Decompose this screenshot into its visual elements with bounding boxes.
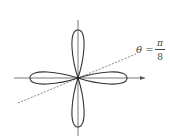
x-axis-arrow-icon (140, 76, 145, 80)
origin-point (76, 76, 79, 79)
rose-curve-figure (0, 0, 170, 140)
fraction-bar (155, 49, 165, 50)
ray-label-denominator: 8 (155, 52, 165, 62)
ray-label-numerator: π (155, 38, 165, 48)
ray-label-theta: θ = (136, 45, 154, 55)
